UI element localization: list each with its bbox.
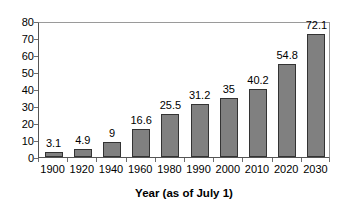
bar[interactable] [220, 98, 238, 158]
y-axis: 01020304050607080 [10, 15, 34, 163]
bar[interactable] [161, 114, 179, 157]
bar-value-label: 72.1 [306, 20, 327, 31]
x-tick-label: 2020 [274, 163, 298, 175]
x-tick-label: 1920 [70, 163, 94, 175]
x-axis-ticks [38, 158, 330, 162]
bar[interactable] [249, 89, 267, 157]
bar-group: 4.9 [68, 23, 97, 157]
bar-group: 16.6 [127, 23, 156, 157]
x-tick-label: 1960 [128, 163, 152, 175]
y-tick-label: 50 [10, 68, 34, 79]
x-tick-mark [184, 158, 185, 162]
y-tick-label: 0 [10, 153, 34, 164]
x-tick-label: 1990 [186, 163, 210, 175]
x-tick-mark [272, 158, 273, 162]
x-tick-mark [301, 158, 302, 162]
x-tick-label: 1940 [99, 163, 123, 175]
y-tick-label: 40 [10, 85, 34, 96]
bar-group: 54.8 [273, 23, 302, 157]
bar-value-label: 31.2 [189, 90, 210, 101]
x-tick-mark [155, 158, 156, 162]
bar-value-label: 54.8 [276, 50, 297, 61]
bar-value-label: 35 [223, 84, 235, 95]
bar[interactable] [74, 149, 92, 157]
x-tick-label: 1900 [40, 163, 64, 175]
bar-group: 40.2 [243, 23, 272, 157]
x-tick-mark [38, 158, 39, 162]
x-tick-label: 1980 [157, 163, 181, 175]
bars-layer: 3.14.9916.625.531.23540.254.872.1 [39, 23, 329, 157]
y-tick-label: 80 [10, 17, 34, 28]
bar[interactable] [132, 129, 150, 157]
y-tick-label: 70 [10, 34, 34, 45]
bar-value-label: 40.2 [247, 75, 268, 86]
x-tick-label: 2030 [303, 163, 327, 175]
bar-group: 35 [214, 23, 243, 157]
bar[interactable] [45, 152, 63, 157]
bar-chart: 01020304050607080 3.14.9916.625.531.2354… [0, 0, 346, 216]
x-axis: 1900192019401960198019902000201020202030 [38, 163, 330, 177]
x-tick-mark [126, 158, 127, 162]
bar[interactable] [307, 34, 325, 157]
bar-group: 9 [97, 23, 126, 157]
x-axis-title: Year (as of July 1) [38, 187, 330, 199]
x-tick-mark [329, 158, 330, 162]
bar[interactable] [191, 104, 209, 157]
bar-value-label: 3.1 [46, 138, 61, 149]
y-tick-label: 30 [10, 102, 34, 113]
bar[interactable] [278, 64, 296, 157]
bar-value-label: 25.5 [160, 100, 181, 111]
bar-group: 25.5 [156, 23, 185, 157]
bar-group: 72.1 [302, 23, 331, 157]
bar[interactable] [103, 142, 121, 157]
y-tick-label: 20 [10, 119, 34, 130]
bar-value-label: 9 [109, 128, 115, 139]
x-tick-label: 2010 [245, 163, 269, 175]
x-tick-label: 2000 [216, 163, 240, 175]
bar-value-label: 4.9 [75, 135, 90, 146]
x-tick-mark [213, 158, 214, 162]
x-tick-mark [242, 158, 243, 162]
bar-group: 31.2 [185, 23, 214, 157]
plot-area: 3.14.9916.625.531.23540.254.872.1 [38, 22, 330, 158]
y-tick-label: 60 [10, 51, 34, 62]
x-tick-mark [67, 158, 68, 162]
bar-group: 3.1 [39, 23, 68, 157]
y-tick-label: 10 [10, 136, 34, 147]
x-tick-mark [96, 158, 97, 162]
bar-value-label: 16.6 [130, 115, 151, 126]
